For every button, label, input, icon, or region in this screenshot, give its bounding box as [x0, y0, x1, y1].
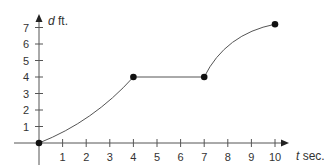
y-tick-label: 2 — [23, 104, 29, 116]
axes — [14, 14, 289, 165]
data-point-dot-icon — [201, 74, 208, 81]
y-axis-unit: ft. — [58, 14, 68, 28]
data-series — [39, 24, 275, 143]
y-axis-label: d ft. — [48, 14, 68, 28]
data-point-dot-icon — [130, 74, 137, 81]
x-tick-label: 2 — [83, 151, 89, 163]
curve-segment-decelerating — [204, 24, 275, 77]
x-tick-label: 3 — [107, 151, 113, 163]
y-tick-label: 4 — [23, 71, 29, 83]
y-tick-label: 1 — [23, 121, 29, 133]
x-tick-label: 7 — [201, 151, 207, 163]
y-tick-label: 5 — [23, 55, 29, 67]
ticks: 123456789101234567 — [23, 22, 281, 164]
y-axis-variable: d — [48, 14, 58, 28]
x-tick-label: 4 — [130, 151, 136, 163]
x-tick-label: 6 — [178, 151, 184, 163]
y-tick-label: 6 — [23, 38, 29, 50]
data-point-dot-icon — [272, 21, 279, 28]
y-tick-label: 7 — [23, 22, 29, 34]
chart-canvas: 123456789101234567 d ft.t sec. — [0, 0, 332, 168]
y-axis-arrow-icon — [36, 14, 43, 22]
y-tick-label: 3 — [23, 88, 29, 100]
x-tick-label: 5 — [154, 151, 160, 163]
x-tick-label: 8 — [225, 151, 231, 163]
x-axis-variable: t — [296, 149, 303, 163]
x-tick-label: 9 — [248, 151, 254, 163]
x-tick-label: 1 — [60, 151, 66, 163]
x-axis-arrow-icon — [281, 140, 289, 147]
curve-segment-accelerating — [39, 77, 133, 143]
data-point-dot-icon — [36, 140, 43, 147]
x-tick-label: 10 — [269, 151, 281, 163]
distance-time-chart: 123456789101234567 d ft.t sec. — [0, 0, 332, 168]
x-axis-label: t sec. — [296, 149, 325, 163]
x-axis-unit: sec. — [303, 149, 325, 163]
